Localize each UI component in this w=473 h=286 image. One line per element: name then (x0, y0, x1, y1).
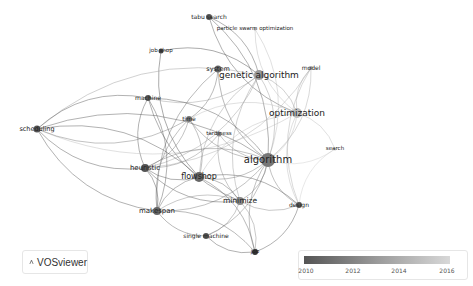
node-label-pso[interactable]: particle swarm optimization (217, 26, 294, 32)
node-label-heuristic[interactable]: heuristic (130, 165, 160, 172)
app-name: VOSviewer (37, 257, 87, 268)
link-edge (255, 29, 279, 160)
node-label-model[interactable]: model (302, 65, 321, 71)
node-label-singlemachine[interactable]: single machine (183, 233, 228, 239)
node-label-design[interactable]: design (289, 202, 309, 208)
timeline-legend: 2010 2012 2014 2016 (298, 250, 468, 280)
node-label-ga[interactable]: genetic algorithm (219, 71, 299, 80)
link-edge (199, 177, 255, 252)
node-label-search[interactable]: search (326, 146, 344, 152)
node-label-job[interactable]: job (251, 249, 259, 255)
link-edge (255, 205, 299, 252)
node-label-optimization[interactable]: optimization (269, 109, 325, 118)
legend-tick: 2014 (391, 267, 406, 274)
node-label-algorithm[interactable]: algorithm (244, 155, 292, 165)
legend-tick: 2012 (345, 267, 360, 274)
link-edge (268, 113, 297, 160)
legend-tick: 2016 (439, 267, 454, 274)
node-label-scheduling[interactable]: scheduling (19, 126, 54, 133)
link-edge (297, 113, 335, 149)
node-label-tardiness[interactable]: tardiness (206, 131, 231, 137)
network-map[interactable] (0, 0, 473, 286)
link-edge (268, 160, 299, 205)
node-label-machine[interactable]: machine (135, 95, 161, 101)
node-label-flowshop[interactable]: flowshop (181, 173, 217, 181)
node-label-time[interactable]: time (182, 116, 196, 122)
vosviewer-icon (29, 256, 34, 268)
node-label-minimize[interactable]: minimize (223, 197, 257, 205)
color-gradient-bar (304, 256, 450, 264)
node-label-makespan[interactable]: makespan (139, 208, 175, 215)
link-edge (138, 98, 148, 168)
node-label-jobshop[interactable]: job shop (149, 48, 172, 54)
vosviewer-logo: VOSviewer (22, 250, 88, 274)
legend-tick: 2010 (298, 267, 313, 274)
link-edge (299, 149, 335, 205)
node-label-tabu[interactable]: tabu search (191, 14, 226, 20)
